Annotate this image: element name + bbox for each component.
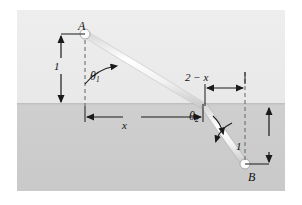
theta2-label: θ2 (189, 110, 199, 124)
diagram-panel: A B θ1 θ2 x 2 − x 1 1 (17, 10, 285, 191)
dim-vertical-right (245, 108, 269, 164)
point-b-label: B (248, 171, 255, 183)
dim-horizontal-2-minus-x (205, 72, 245, 106)
dim-vertical-left (61, 34, 85, 102)
dim-height-right-label: 1 (236, 141, 242, 152)
light-ray (85, 34, 245, 164)
theta2-subscript: 2 (195, 115, 199, 124)
theta1-subscript: 1 (96, 75, 100, 84)
diagram-overlay (17, 10, 285, 191)
dim-horizontal-x (85, 104, 203, 122)
refracted-ray (205, 107, 245, 164)
theta1-label: θ1 (90, 70, 100, 84)
point-a-label: A (78, 20, 85, 32)
dim-x-label: x (122, 120, 127, 131)
dim-2-minus-x-label: 2 − x (185, 72, 208, 83)
dim-height-left-label: 1 (54, 61, 60, 72)
